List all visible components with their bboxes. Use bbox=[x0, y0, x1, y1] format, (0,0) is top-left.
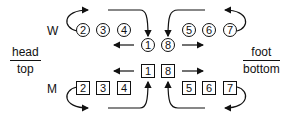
row-label-m: M bbox=[47, 83, 57, 95]
w-node-4: 4 bbox=[117, 23, 131, 37]
row-label-w: W bbox=[47, 25, 58, 37]
w-node-1: 1 bbox=[141, 38, 155, 52]
left-label: head top bbox=[10, 46, 41, 76]
m-node-8: 8 bbox=[161, 64, 175, 78]
left-label-top: head bbox=[10, 46, 41, 61]
right-label-bottom: bottom bbox=[243, 61, 280, 76]
m-node-7: 7 bbox=[223, 81, 237, 95]
left-label-bottom: top bbox=[10, 61, 41, 76]
m-node-1: 1 bbox=[141, 64, 155, 78]
w-node-8: 8 bbox=[161, 38, 175, 52]
w-node-2: 2 bbox=[76, 23, 90, 37]
w-node-7: 7 bbox=[223, 23, 237, 37]
m-node-2: 2 bbox=[76, 81, 90, 95]
m-node-4: 4 bbox=[117, 81, 131, 95]
right-label: foot bottom bbox=[243, 46, 280, 76]
right-label-top: foot bbox=[243, 46, 280, 61]
m-node-5: 5 bbox=[182, 81, 196, 95]
w-node-5: 5 bbox=[182, 23, 196, 37]
w-node-3: 3 bbox=[96, 23, 110, 37]
w-node-6: 6 bbox=[202, 23, 216, 37]
m-node-6: 6 bbox=[202, 81, 216, 95]
m-node-3: 3 bbox=[96, 81, 110, 95]
